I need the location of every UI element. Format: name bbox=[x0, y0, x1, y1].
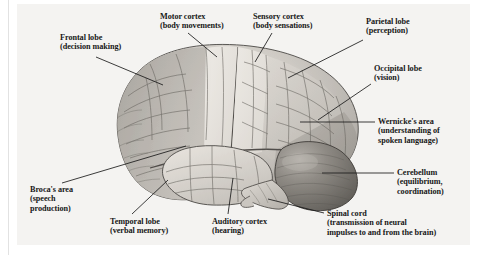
label-temporal-lobe: Temporal lobe(verbal memory) bbox=[110, 217, 168, 236]
label-frontal-lobe: Frontal lobe(decision making) bbox=[60, 33, 121, 52]
label-occipital-lobe: Occipital lobe(vision) bbox=[374, 64, 422, 83]
label-spinal-cord: Spinal cord(transmission of neuralimpuls… bbox=[327, 209, 436, 237]
label-cerebellum: Cerebellum(equilibrium,coordination) bbox=[397, 168, 444, 196]
cerebellum-highlight bbox=[282, 153, 318, 171]
label-motor-cortex: Motor cortex(body movements) bbox=[160, 12, 224, 31]
label-brocas-area: Broca's area(speechproduction) bbox=[30, 185, 73, 213]
label-wernickes-area: Wernicke's area(understanding ofspoken l… bbox=[378, 117, 440, 145]
label-sensory-cortex: Sensory cortex(body sensations) bbox=[253, 12, 312, 31]
brain-diagram-figure: Frontal lobe(decision making) Motor cort… bbox=[0, 0, 479, 255]
label-auditory-cortex: Auditory cortex(hearing) bbox=[212, 217, 267, 236]
label-parietal-lobe: Parietal lobe(perception) bbox=[366, 17, 410, 36]
